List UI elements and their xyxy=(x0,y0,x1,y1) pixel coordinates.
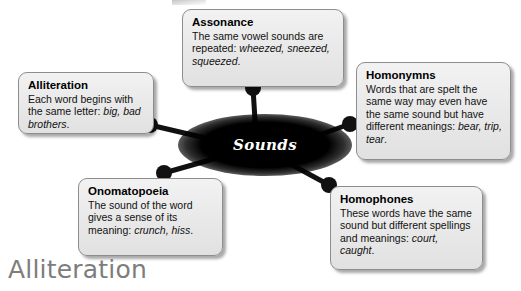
node-body: These words have the same sound but diff… xyxy=(340,207,474,257)
node-body: The sound of the word gives a sense of i… xyxy=(88,199,214,236)
node-title: Alliteration xyxy=(28,78,145,92)
mindmap-figure: Sounds Alliteration Each word begins wit… xyxy=(0,0,521,291)
node-alliteration[interactable]: Alliteration Each word begins with the s… xyxy=(18,72,154,134)
node-body: Each word begins with the same letter: b… xyxy=(28,93,145,130)
central-node-label: Sounds xyxy=(233,136,297,154)
node-title: Homonymns xyxy=(366,68,502,82)
figure-caption: Alliteration xyxy=(8,255,147,284)
node-body: The same vowel sounds are repeated: whee… xyxy=(192,30,335,67)
node-title: Assonance xyxy=(192,15,335,29)
central-node-sounds: Sounds xyxy=(178,114,352,176)
node-body: Words that are spelt the same way may ev… xyxy=(366,83,502,145)
node-assonance[interactable]: Assonance The same vowel sounds are repe… xyxy=(182,9,344,87)
node-onomatopoeia[interactable]: Onomatopoeia The sound of the word gives… xyxy=(78,178,223,256)
node-homonymns[interactable]: Homonymns Words that are spelt the same … xyxy=(356,62,511,160)
page-edge-artifact xyxy=(172,0,206,5)
node-title: Homophones xyxy=(340,192,474,206)
node-homophones[interactable]: Homophones These words have the same sou… xyxy=(330,186,483,270)
node-title: Onomatopoeia xyxy=(88,184,214,198)
